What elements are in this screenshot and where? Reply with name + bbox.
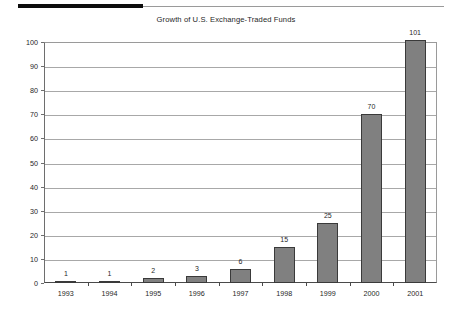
x-axis-tick-mark xyxy=(262,283,263,286)
x-axis-tick-mark xyxy=(393,283,394,286)
y-axis-tick-label: 80 xyxy=(8,86,38,95)
x-axis-tick-label: 1996 xyxy=(172,289,222,298)
y-axis-tick-label: 60 xyxy=(8,134,38,143)
y-axis-tick-label: 40 xyxy=(8,183,38,192)
x-axis-tick-mark xyxy=(219,283,220,286)
y-axis-tick-label: 100 xyxy=(8,38,38,47)
bars-layer: 11236152570101 xyxy=(44,42,437,283)
bar-value-label: 70 xyxy=(352,103,392,110)
y-axis-tick-label: 0 xyxy=(8,279,38,288)
bar[interactable] xyxy=(230,269,251,283)
x-axis-tick-label: 1999 xyxy=(303,289,353,298)
x-axis-tick-label: 1993 xyxy=(41,289,91,298)
x-axis-labels: 199319941995199619971998199920002001 xyxy=(44,289,437,303)
x-axis-tick-label: 1998 xyxy=(259,289,309,298)
x-axis-ticks xyxy=(44,283,437,287)
x-axis-tick-mark xyxy=(131,283,132,286)
x-axis-tick-label: 1995 xyxy=(128,289,178,298)
bar-value-label: 6 xyxy=(221,258,261,265)
y-axis-tick-label: 90 xyxy=(8,62,38,71)
bar[interactable] xyxy=(405,40,426,283)
bar-value-label: 25 xyxy=(308,212,348,219)
bar[interactable] xyxy=(274,247,295,283)
x-axis-tick-label: 1994 xyxy=(85,289,135,298)
bar-value-label: 1 xyxy=(90,270,130,277)
chart-title: Growth of U.S. Exchange-Traded Funds xyxy=(0,15,452,24)
y-axis-tick-label: 70 xyxy=(8,110,38,119)
bar[interactable] xyxy=(317,223,338,283)
y-axis-tick-label: 50 xyxy=(8,159,38,168)
bar-value-label: 1 xyxy=(46,270,86,277)
x-axis-tick-label: 2000 xyxy=(347,289,397,298)
x-axis-tick-mark xyxy=(350,283,351,286)
x-axis-tick-label: 2001 xyxy=(390,289,440,298)
bar[interactable] xyxy=(361,114,382,283)
bar-value-label: 2 xyxy=(133,267,173,274)
bar-value-label: 101 xyxy=(395,29,435,36)
bar-value-label: 15 xyxy=(264,236,304,243)
y-axis-tick-label: 30 xyxy=(8,207,38,216)
y-axis-tick-label: 10 xyxy=(8,255,38,264)
header-rule-thick xyxy=(18,4,143,8)
bar[interactable] xyxy=(186,276,207,283)
y-axis-tick-label: 20 xyxy=(8,231,38,240)
x-axis-tick-mark xyxy=(88,283,89,286)
x-axis-tick-mark xyxy=(175,283,176,286)
x-axis-tick-mark xyxy=(306,283,307,286)
bar-value-label: 3 xyxy=(177,265,217,272)
x-axis-tick-label: 1997 xyxy=(216,289,266,298)
